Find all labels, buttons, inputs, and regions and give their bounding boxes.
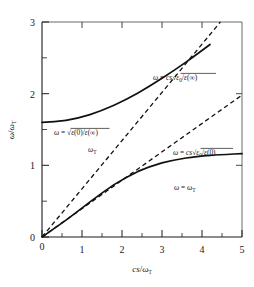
svg-text:ω = cs√ε0/ε(∞): ω = cs√ε0/ε(∞) [153, 73, 198, 83]
y-axis-label: ω/ωT [6, 120, 17, 139]
x-tick-label-1: 1 [80, 244, 85, 255]
svg-text:ω = √ε(0)/ε(∞): ω = √ε(0)/ε(∞) [54, 128, 98, 137]
svg-text:cs/ωT: cs/ωT [132, 264, 152, 275]
x-tick-label-4: 4 [200, 244, 205, 255]
svg-text:ω = ωT: ω = ωT [174, 183, 196, 193]
figure-container: 0 1 2 3 4 5 0 1 2 3 ω/ωT cs/ωT ω = √ε(0)… [0, 0, 254, 287]
x-tick-label-0: 0 [40, 241, 45, 252]
y-axis-minor-ticks [42, 58, 47, 201]
svg-text:ω/ωT: ω/ωT [6, 120, 17, 139]
annotation-light-line-infinity: ω = cs√ε0/ε(∞) [153, 73, 216, 83]
x-tick-label-3: 3 [160, 244, 165, 255]
y-tick-label-2: 2 [30, 89, 35, 100]
y-tick-label-3: 3 [30, 17, 35, 28]
annotation-upper-asymptote: ω = √ε(0)/ε(∞) [54, 128, 110, 137]
top-frame-ticks [82, 22, 202, 28]
annotation-lower-asymptote: ω = ωT [174, 183, 196, 193]
polariton-dispersion-plot: 0 1 2 3 4 5 0 1 2 3 ω/ωT cs/ωT ω = √ε(0)… [0, 0, 254, 287]
annotation-light-line-zero: ω = cs√ε0/ε(0) [173, 148, 233, 158]
lower-polariton-branch [42, 154, 242, 237]
x-axis-label: cs/ωT [132, 264, 152, 275]
y-tick-label-1: 1 [30, 160, 35, 171]
annotation-omega-T-line: ωT [88, 145, 97, 155]
x-tick-labels: 0 1 2 3 4 5 [40, 241, 245, 255]
svg-text:ω = cs√ε0/ε(0): ω = cs√ε0/ε(0) [173, 148, 216, 158]
x-tick-label-5: 5 [240, 244, 245, 255]
x-tick-label-2: 2 [120, 244, 125, 255]
x-axis-minor-ticks [62, 233, 222, 237]
y-tick-label-0: 0 [30, 232, 35, 243]
upper-polariton-branch [42, 45, 210, 123]
svg-text:ωT: ωT [88, 145, 97, 155]
y-tick-labels: 0 1 2 3 [30, 17, 35, 243]
